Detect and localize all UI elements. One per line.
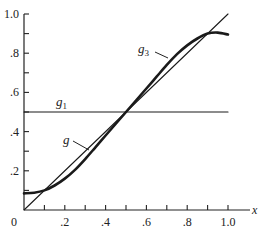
g-leader-line [73,141,89,150]
y-tick-label: 1.0 [4,7,19,21]
y-tick-label: .8 [10,46,19,60]
g-label: g [63,132,70,147]
x-tick-label: 0 [11,215,17,229]
g3-label: g3 [138,41,150,58]
y-tick-label: .6 [10,85,19,99]
y-ticks [24,14,29,190]
x-tick-labels: 0.2.4.6.81.0 [11,215,236,229]
series-g [24,33,228,194]
g1-label: g1 [56,94,67,111]
x-axis-label: x [251,203,258,217]
y-tick-label: .4 [10,125,19,139]
y-tick-label: .2 [10,164,19,178]
series-group [24,14,228,210]
y-tick-labels: .2.4.6.81.0 [4,7,19,178]
x-ticks [44,205,228,210]
x-tick-label: .8 [183,215,192,229]
x-tick-label: 1.0 [221,215,236,229]
function-plot: 0.2.4.6.81.0 .2.4.6.81.0 x g1 g g3 [0,0,262,235]
x-tick-label: .2 [60,215,69,229]
x-tick-label: .6 [142,215,151,229]
g3-leader-line [155,52,168,58]
x-tick-label: .4 [101,215,110,229]
